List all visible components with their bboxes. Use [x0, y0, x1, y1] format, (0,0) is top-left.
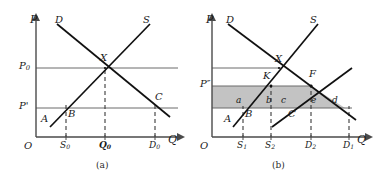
panel-a-y-axis-label: P	[30, 13, 37, 26]
panel-a-price-label-Pprime: P'	[19, 100, 28, 111]
panel-b-qtick-label-S2: S2	[265, 140, 275, 150]
panel-b-qtick-label-D1-sub: 1	[350, 143, 354, 150]
panel-b-qtick-label-D2-sub: 2	[312, 143, 316, 150]
panel-a-graph	[36, 20, 178, 140]
panel-a-price-label-P0: P0	[19, 60, 30, 72]
panel-b-caption: (b)	[272, 160, 285, 170]
panel-b-y-axis-label: P	[206, 13, 213, 26]
panel-a-qtick-label-S0: S0	[60, 140, 70, 150]
figure-svg	[0, 0, 381, 180]
panel-b-qtick-label-D2: D2	[305, 140, 316, 150]
panel-a-qtick-label-Q0: Q0	[99, 140, 111, 150]
panel-b-point-K-dot	[270, 85, 273, 88]
panel-b-price-label-Pdoubleprime: P″	[200, 78, 210, 89]
panel-a-curve-label-demand: D	[55, 14, 63, 25]
panel-a-qtick-label-D0-sub: 0	[156, 143, 160, 150]
panel-a-origin-label: O	[24, 140, 32, 151]
figure-root: P Q O P0 P' S0 Q0 D0 D S X A B C (a) P Q…	[0, 0, 381, 180]
panel-a-curve-label-supply: S	[143, 14, 150, 25]
panel-a-supply-curve	[50, 24, 150, 127]
panel-a-qtick-label-Q0-main: Q	[99, 140, 107, 150]
panel-b-qtick-label-S1-sub: 1	[243, 143, 247, 150]
panel-b-graph	[212, 20, 366, 140]
panel-b-origin-label: O	[200, 140, 208, 151]
panel-a-price-label-Pprime-sub: '	[26, 100, 29, 111]
panel-a-point-label-C: C	[155, 91, 163, 102]
panel-a-caption: (a)	[96, 160, 108, 170]
panel-b-point-X-dot	[278, 67, 280, 69]
panel-b-qtick-label-D1: D1	[343, 140, 354, 150]
panel-b-point-label-C: C	[288, 108, 296, 119]
panel-b-qtick-label-S1: S1	[237, 140, 247, 150]
panel-b-region-label-a: a	[236, 95, 241, 105]
panel-b-point-label-B: B	[245, 108, 252, 119]
panel-b-point-label-K: K	[263, 70, 270, 81]
panel-b-curve-label-demand: D	[226, 14, 234, 25]
panel-a-price-label-P0-sub: 0	[26, 64, 30, 72]
panel-a-qtick-label-Q0-sub: 0	[107, 143, 111, 150]
panel-a-point-label-A: A	[41, 113, 48, 124]
panel-b-point-F-dot	[310, 85, 313, 88]
panel-b-point-label-X: X	[275, 53, 282, 64]
panel-b-region-label-d: d	[332, 95, 338, 105]
panel-b-price-label-Pdoubleprime-main: P	[200, 78, 207, 89]
panel-b-price-label-Pdoubleprime-sub: ″	[207, 78, 211, 89]
panel-b-x-axis-label: Q	[357, 133, 366, 146]
panel-a-price-label-Pprime-main: P	[19, 100, 26, 111]
panel-b-region-label-e: e	[311, 95, 316, 105]
panel-a-x-axis-label: Q	[168, 133, 177, 146]
panel-a-qtick-label-D0: D0	[149, 140, 160, 150]
panel-a-point-label-X: X	[100, 52, 107, 63]
panel-b-qtick-label-S2-sub: 2	[271, 143, 275, 150]
panel-b-region-label-b: b	[266, 95, 272, 105]
panel-a-qtick-label-S0-sub: 0	[66, 143, 70, 150]
panel-a-point-X-dot	[104, 67, 106, 69]
panel-b-region-label-c: c	[281, 95, 286, 105]
panel-a-price-label-P0-main: P	[19, 60, 26, 71]
panel-b-point-label-A: A	[224, 113, 231, 124]
panel-b-curve-label-supply: S	[310, 14, 317, 25]
panel-b-point-label-F: F	[309, 68, 316, 79]
panel-a-point-label-B: B	[68, 108, 75, 119]
